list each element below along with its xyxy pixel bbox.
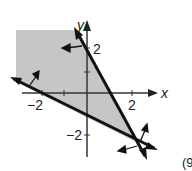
tick-label-x-neg2: −2	[27, 98, 43, 112]
tick-label-y-pos2: 2	[93, 42, 101, 56]
tick-label-y-neg2: −2	[66, 128, 82, 142]
y-axis-label: y	[77, 18, 84, 32]
tick-label-x-pos2: 2	[128, 98, 136, 112]
x-axis-label: x	[161, 86, 168, 100]
y-axis-arrow-icon	[83, 20, 91, 31]
x-axis-arrow-icon	[148, 89, 158, 97]
exercise-label: (9	[182, 156, 192, 169]
